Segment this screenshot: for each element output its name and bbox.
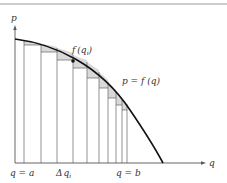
demand-curve xyxy=(15,39,163,163)
highlight-point xyxy=(71,59,75,63)
shaded-regions xyxy=(24,41,127,110)
point-label: f(qi) xyxy=(71,45,93,56)
left-bound-label: q = a xyxy=(10,168,34,178)
x-axis-label: q xyxy=(209,158,215,168)
x-axis-arrow-icon xyxy=(201,161,206,164)
right-bound-label: q = b xyxy=(116,168,141,178)
rect-tops xyxy=(24,45,127,110)
y-axis-label: p xyxy=(11,13,17,23)
y-axis-arrow-icon xyxy=(13,25,16,30)
riemann-sum-figure: p q f(qi) p = f (q) q = a Δqi q = b xyxy=(0,0,227,183)
curve-label: p = f (q) xyxy=(122,76,160,86)
delta-q-label: Δqi xyxy=(55,168,71,179)
